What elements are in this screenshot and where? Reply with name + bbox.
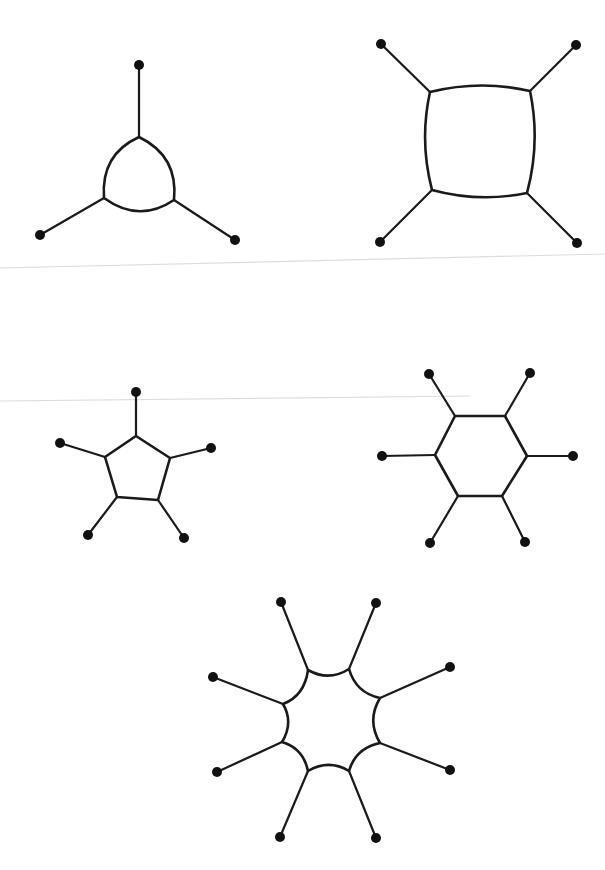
pendant-bond [380, 190, 432, 242]
pendant-bond [382, 455, 435, 456]
ring-path [282, 669, 380, 771]
terminal-dot-icon [424, 369, 434, 379]
terminal-dot-icon [134, 60, 144, 70]
pendant-bond [349, 603, 376, 669]
figures [35, 39, 582, 843]
pendant-bond [502, 496, 525, 542]
scan-lines [0, 254, 605, 401]
terminal-dot-icon [525, 368, 535, 378]
terminal-dot-icon [445, 765, 455, 775]
triangle-ring [35, 60, 240, 245]
octagon-ring [208, 597, 455, 843]
terminal-dot-icon [179, 533, 189, 543]
terminal-dot-icon [208, 672, 218, 682]
hexagon-ring [377, 368, 578, 548]
ring-path [425, 85, 535, 197]
pendant-bond [60, 443, 105, 457]
terminal-dot-icon [131, 387, 141, 397]
terminal-dot-icon [55, 438, 65, 448]
pendant-bond [380, 667, 450, 698]
ring-path [105, 436, 170, 500]
terminal-dot-icon [377, 451, 387, 461]
terminal-dot-icon [375, 237, 385, 247]
terminal-dot-icon [376, 39, 386, 49]
pendant-bond [158, 500, 184, 538]
terminal-dot-icon [206, 443, 216, 453]
pendant-bond [505, 373, 530, 416]
pendant-bond [530, 45, 576, 91]
terminal-dot-icon [230, 235, 240, 245]
square-ring [375, 39, 582, 248]
pendant-bond [281, 602, 308, 670]
terminal-dot-icon [520, 537, 530, 547]
ring-graphs-diagram [0, 0, 605, 870]
terminal-dot-icon [275, 832, 285, 842]
terminal-dot-icon [572, 238, 582, 248]
ring-path [435, 416, 527, 496]
terminal-dot-icon [371, 598, 381, 608]
pendant-bond [40, 198, 104, 235]
terminal-dot-icon [425, 538, 435, 548]
pendant-bond [381, 44, 430, 92]
scan-line [0, 396, 470, 401]
terminal-dot-icon [371, 833, 381, 843]
terminal-dot-icon [83, 530, 93, 540]
terminal-dot-icon [212, 767, 222, 777]
pendant-bond [527, 193, 577, 243]
pendant-bond [217, 742, 282, 772]
terminal-dot-icon [35, 230, 45, 240]
scan-line [0, 254, 605, 268]
pendant-bond [280, 771, 308, 837]
pendant-bond [430, 496, 458, 543]
pendant-bond [380, 743, 450, 770]
pendant-bond [349, 771, 376, 838]
terminal-dot-icon [568, 451, 578, 461]
terminal-dot-icon [571, 40, 581, 50]
pendant-bond [170, 448, 211, 458]
pendant-bond [213, 677, 283, 704]
pendant-bond [429, 374, 455, 416]
pentagon-ring [55, 387, 216, 543]
pendant-bond [174, 200, 235, 240]
ring-path [104, 137, 175, 211]
pendant-bond [88, 497, 117, 535]
terminal-dot-icon [276, 597, 286, 607]
terminal-dot-icon [445, 662, 455, 672]
